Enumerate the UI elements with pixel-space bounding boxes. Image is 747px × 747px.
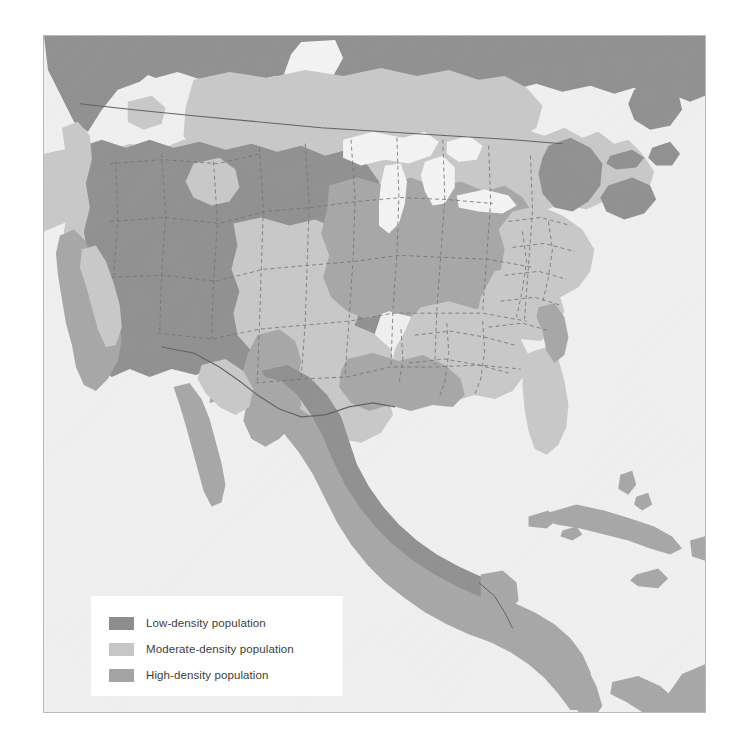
legend-item-high-density: High-density population bbox=[109, 662, 343, 688]
map-legend: Low-density population Moderate-density … bbox=[91, 596, 343, 696]
swatch-low-density bbox=[109, 617, 134, 630]
legend-item-low-density: Low-density population bbox=[109, 610, 343, 636]
swatch-high-density bbox=[109, 669, 134, 682]
legend-item-moderate-density: Moderate-density population bbox=[109, 636, 343, 662]
legend-label-high-density: High-density population bbox=[146, 669, 269, 682]
page-canvas: Low-density population Moderate-density … bbox=[0, 0, 747, 747]
swatch-moderate-density bbox=[109, 643, 134, 656]
map-frame: Low-density population Moderate-density … bbox=[43, 35, 706, 713]
legend-label-moderate-density: Moderate-density population bbox=[146, 643, 294, 656]
legend-label-low-density: Low-density population bbox=[146, 617, 266, 630]
